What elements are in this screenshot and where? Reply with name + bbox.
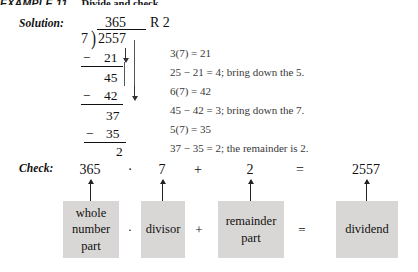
box-whole-number-part: whole number part: [63, 201, 119, 258]
remainder-note: R 2: [150, 15, 170, 31]
check-operator-equals: =: [288, 162, 312, 178]
check-label: Check:: [19, 162, 53, 174]
box-dividend: dividend: [336, 201, 398, 258]
step-2-value: 45: [104, 70, 118, 86]
step-5-value: 35: [106, 126, 120, 142]
check-term-dividend: 2557: [336, 162, 396, 178]
bring-down-guide-2: [124, 62, 125, 86]
box-divisor: divisor: [141, 201, 185, 258]
step-5-minus: −: [86, 126, 94, 142]
box-operator-equals: =: [293, 222, 311, 238]
annotation-line-4: 45 − 42 = 3; bring down the 7.: [170, 104, 304, 116]
annotation-line-1: 3(7) = 21: [170, 47, 211, 59]
annotation-line-3: 6(7) = 42: [170, 85, 211, 97]
step-4-value: 37: [106, 108, 120, 124]
check-operator-times: ·: [118, 162, 142, 178]
check-operator-plus: +: [186, 162, 210, 178]
annotation-line-5: 5(7) = 35: [170, 123, 211, 135]
box-operator-times: ·: [121, 222, 139, 238]
step-3-rule: [81, 104, 123, 105]
solution-label: Solution:: [19, 17, 64, 29]
step-1-rule: [81, 66, 123, 67]
step-5-rule: [84, 142, 126, 143]
check-term-remainder: 2: [224, 162, 276, 178]
bring-down-arrow-1-icon: [125, 48, 126, 62]
step-3-value: 42: [104, 88, 118, 104]
textbook-example-figure: EXAMPLE 11 Divide and check. Solution: 3…: [0, 0, 418, 272]
division-bracket-icon: ): [91, 27, 96, 48]
dividend: 2557: [98, 31, 126, 47]
step-3-minus: −: [83, 88, 91, 104]
box-operator-plus: +: [190, 222, 208, 238]
bring-down-arrow-2-icon: [134, 86, 135, 100]
step-6-value: 2: [116, 144, 123, 160]
example-title: Divide and check.: [82, 0, 162, 5]
check-term-divisor: 7: [142, 162, 182, 178]
example-number-label: EXAMPLE 11: [0, 0, 68, 5]
division-vinculum: [97, 29, 146, 30]
step-1-minus: −: [83, 50, 91, 66]
step-1-value: 21: [104, 50, 118, 66]
box-remainder-part: remainder part: [218, 201, 284, 258]
example-header: EXAMPLE 11 Divide and check.: [0, 0, 418, 5]
divisor: 7: [81, 31, 88, 47]
check-term-quotient: 365: [62, 162, 118, 178]
annotation-line-6: 37 − 35 = 2; the remainder is 2.: [170, 142, 309, 154]
annotation-line-2: 25 − 21 = 4; bring down the 5.: [170, 66, 304, 78]
